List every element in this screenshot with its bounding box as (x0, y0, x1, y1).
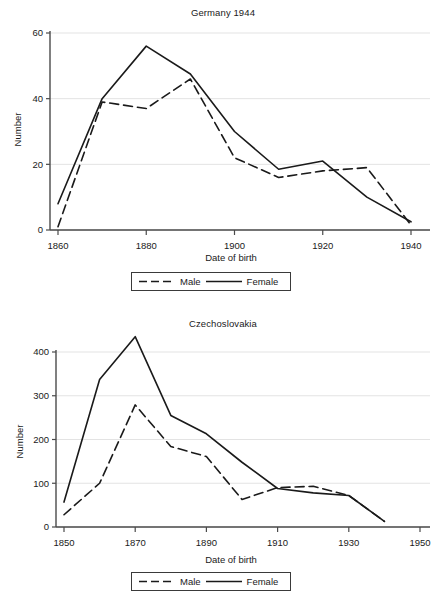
svg-text:200: 200 (33, 434, 49, 445)
legend-swatch-male-dashed (139, 277, 175, 286)
x-axis-label-czechoslovakia: Date of birth (8, 554, 446, 565)
legend-label-female: Female (247, 576, 279, 587)
legend-czechoslovakia: Male Female (131, 572, 291, 591)
legend-label-male: Male (180, 276, 201, 287)
svg-text:1890: 1890 (196, 537, 217, 548)
y-axis-label-czechoslovakia: Number (14, 412, 25, 472)
chart-panel-czechoslovakia: Czechoslovakia 0100200300400185018701890… (0, 302, 446, 601)
svg-text:40: 40 (32, 93, 43, 104)
svg-text:0: 0 (44, 521, 49, 532)
legend-item-female: Female (206, 276, 284, 287)
svg-text:1950: 1950 (409, 537, 430, 548)
chart-panel-germany: Germany 1944 020406018601880190019201940… (0, 0, 446, 302)
svg-text:0: 0 (38, 224, 43, 235)
series-line-male (64, 405, 384, 521)
series-line-female (64, 337, 384, 522)
legend-swatch-female-solid (206, 277, 242, 286)
legend-label-female: Female (247, 276, 279, 287)
svg-text:1850: 1850 (53, 537, 74, 548)
svg-text:400: 400 (33, 346, 49, 357)
y-axis-label-germany: Number (12, 100, 23, 160)
svg-text:1880: 1880 (136, 240, 157, 251)
legend-item-male: Male (139, 276, 206, 287)
figure-container: Germany 1944 020406018601880190019201940… (0, 0, 446, 601)
svg-text:1870: 1870 (125, 537, 146, 548)
svg-text:100: 100 (33, 478, 49, 489)
svg-text:20: 20 (32, 159, 43, 170)
legend-label-male: Male (180, 576, 201, 587)
svg-text:1910: 1910 (267, 537, 288, 548)
legend-germany: Male Female (131, 272, 291, 291)
legend-item-female: Female (206, 576, 284, 587)
series-line-male (58, 79, 411, 227)
legend-swatch-female-solid (206, 577, 242, 586)
svg-text:1930: 1930 (338, 537, 359, 548)
legend-swatch-male-dashed (139, 577, 175, 586)
svg-text:1920: 1920 (312, 240, 333, 251)
x-axis-label-germany: Date of birth (8, 252, 446, 263)
svg-text:1900: 1900 (224, 240, 245, 251)
svg-text:60: 60 (32, 27, 43, 38)
legend-item-male: Male (139, 576, 206, 587)
svg-text:1940: 1940 (400, 240, 421, 251)
svg-text:1860: 1860 (47, 240, 68, 251)
svg-text:300: 300 (33, 390, 49, 401)
series-line-female (58, 46, 411, 222)
